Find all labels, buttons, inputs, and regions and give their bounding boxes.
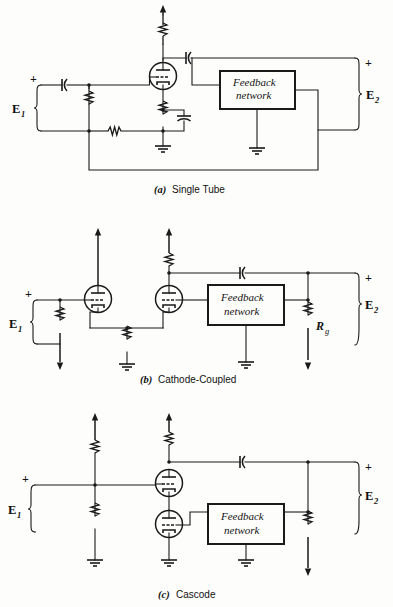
feedback-network-box-c: Feedback network bbox=[208, 504, 284, 544]
output-source-a: + E 2 bbox=[318, 56, 380, 130]
grid-wire-a bbox=[89, 77, 150, 85]
input-label-c: E bbox=[8, 503, 16, 517]
triode-tube-b-2 bbox=[156, 286, 183, 329]
feedback-box-line1-b: Feedback bbox=[220, 291, 265, 303]
feedback-box-line2-a: network bbox=[236, 89, 273, 101]
feedback-box-line2-c: network bbox=[224, 524, 261, 536]
feedback-box-line1-a: Feedback bbox=[232, 76, 277, 88]
panel-c-cascode: + E 1 Feedback network bbox=[8, 413, 379, 601]
triode-tube-c-lower bbox=[156, 510, 183, 566]
feedback-input-wire-a bbox=[192, 58, 220, 85]
ground-symbol-a-1 bbox=[155, 131, 171, 152]
resistor-label-b: R bbox=[315, 319, 324, 333]
input-polarity-a: + bbox=[30, 72, 37, 86]
output-sub-a: 2 bbox=[374, 95, 380, 105]
input-sub-b: 1 bbox=[18, 324, 22, 334]
feedback-in-wire-c bbox=[183, 512, 209, 525]
figure-container: + E 1 bbox=[0, 0, 393, 607]
plate-load-resistor-b bbox=[165, 228, 173, 286]
panel-a-single-tube: + E 1 bbox=[12, 5, 380, 196]
grid-resistor-b bbox=[56, 300, 64, 370]
upper-bias-resistor-c bbox=[91, 413, 99, 485]
caption-text-a: Single Tube bbox=[172, 184, 225, 195]
node-b-plate bbox=[167, 271, 171, 275]
feedback-network-box-a: Feedback network bbox=[220, 71, 295, 109]
triode-tube-c-upper bbox=[156, 470, 183, 511]
caption-index-b: (b) bbox=[140, 374, 152, 386]
output-label-c: E bbox=[365, 489, 373, 503]
triode-tube-a bbox=[150, 63, 177, 111]
panel-b-cathode-coupled: + E 1 Feedback network bbox=[9, 228, 379, 386]
caption-c: (c) Cascode bbox=[158, 589, 216, 601]
output-sub-b: 2 bbox=[373, 305, 379, 315]
input-polarity-b: + bbox=[25, 287, 32, 301]
common-cathode-resistor-b bbox=[119, 326, 135, 370]
output-polarity-c: + bbox=[365, 460, 372, 474]
plate-load-resistor-c bbox=[165, 413, 173, 462]
output-polarity-b: + bbox=[365, 271, 372, 285]
input-label-b: E bbox=[9, 317, 17, 331]
output-polarity-a: + bbox=[365, 56, 372, 70]
coupling-capacitor-input-a bbox=[41, 79, 89, 91]
ground-symbol-c-fb bbox=[238, 544, 254, 566]
triode-tube-b-1 bbox=[85, 286, 112, 329]
feedback-network-box-b: Feedback network bbox=[208, 285, 284, 325]
caption-text-b: Cathode-Coupled bbox=[158, 374, 236, 385]
ground-symbol-b-2 bbox=[238, 325, 254, 368]
feedback-box-line1-c: Feedback bbox=[220, 510, 265, 522]
input-sub-a: 1 bbox=[21, 109, 25, 119]
ground-symbol-a-2 bbox=[249, 109, 265, 154]
lower-bias-resistor-c bbox=[87, 485, 103, 566]
caption-text-c: Cascode bbox=[176, 589, 216, 600]
input-source-b: + E 1 bbox=[9, 287, 37, 344]
input-source-c: + E 1 bbox=[8, 472, 35, 532]
output-source-b: + E 2 bbox=[355, 271, 379, 345]
output-label-a: E bbox=[366, 88, 374, 102]
input-source-a: + E 1 bbox=[12, 72, 41, 131]
output-label-b: E bbox=[365, 298, 373, 312]
grid-resistor-a bbox=[85, 85, 93, 131]
output-sub-c: 2 bbox=[373, 496, 379, 506]
output-source-c: + E 2 bbox=[355, 460, 379, 534]
input-label-a: E bbox=[12, 102, 20, 116]
series-feedback-resistor-a bbox=[89, 127, 163, 135]
caption-index-c: (c) bbox=[158, 589, 170, 601]
grid-return-resistor-b: R g bbox=[304, 273, 329, 370]
grid-resistor-c bbox=[304, 462, 312, 576]
plate-supply-arrow-b bbox=[95, 228, 101, 286]
coupling-capacitor-output-c bbox=[169, 456, 355, 468]
resistor-sub-b: g bbox=[325, 326, 329, 336]
caption-b: (b) Cathode-Coupled bbox=[140, 374, 236, 386]
coupling-capacitor-output-b bbox=[169, 267, 355, 279]
input-polarity-c: + bbox=[22, 472, 29, 486]
cathode-bypass-capacitor-a bbox=[163, 110, 191, 131]
plate-load-resistor-a bbox=[159, 5, 167, 60]
caption-index-a: (a) bbox=[154, 184, 166, 196]
input-sub-c: 1 bbox=[17, 510, 21, 520]
feedback-box-line2-b: network bbox=[224, 305, 261, 317]
caption-a: (a) Single Tube bbox=[154, 184, 225, 196]
